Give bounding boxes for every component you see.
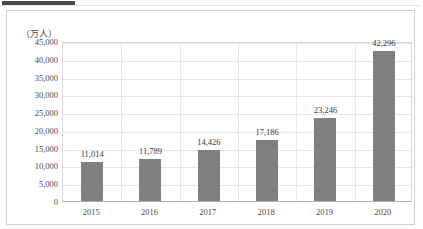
y-tick-label: 10,000 xyxy=(35,161,58,171)
y-axis-tick-labels: 45,00040,00035,00030,00025,00020,00015,0… xyxy=(7,11,58,229)
y-tick-label: 25,000 xyxy=(35,108,58,118)
x-tick-label: 2015 xyxy=(83,207,100,217)
x-tick-label: 2020 xyxy=(374,207,391,217)
y-tick-label: 35,000 xyxy=(35,73,58,83)
y-tick-label: 5,000 xyxy=(39,179,58,189)
y-tick-label: 40,000 xyxy=(35,55,58,65)
y-tick-label: 15,000 xyxy=(35,144,58,154)
x-tick-label: 2017 xyxy=(199,207,216,217)
chart-figure-frame: （万人） 11,01411,78914,42617,18623,24642,29… xyxy=(6,10,415,225)
y-tick-label: 0 xyxy=(54,197,58,207)
y-tick-label: 30,000 xyxy=(35,90,58,100)
x-tick-label: 2018 xyxy=(258,207,275,217)
x-tick-label: 2019 xyxy=(316,207,333,217)
x-axis-tick-labels: 201520162017201820192020 xyxy=(62,11,412,229)
top-divider xyxy=(2,5,421,6)
y-tick-label: 45,000 xyxy=(35,37,58,47)
x-tick-label: 2016 xyxy=(141,207,158,217)
y-tick-label: 20,000 xyxy=(35,126,58,136)
